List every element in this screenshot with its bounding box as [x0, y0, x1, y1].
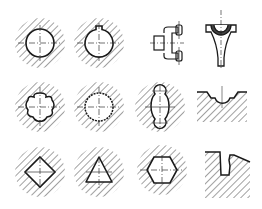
square-hole: [15, 147, 65, 197]
keyed-round-hole: [74, 18, 124, 68]
dovetail-step-surface: [205, 152, 250, 198]
triangular-hole: [74, 147, 124, 197]
hexalobular-hole: [15, 82, 65, 132]
hexagonal-hole: [137, 145, 187, 195]
profiled-groove-surface: [197, 86, 247, 122]
fork-yoke: [150, 21, 184, 65]
triple-lobe-slot: [135, 82, 185, 132]
machining-profiles-diagram: [0, 0, 262, 209]
connecting-rod-end: [206, 10, 236, 70]
round-hole: [15, 18, 65, 68]
serrated-spline-hole: [74, 82, 124, 132]
